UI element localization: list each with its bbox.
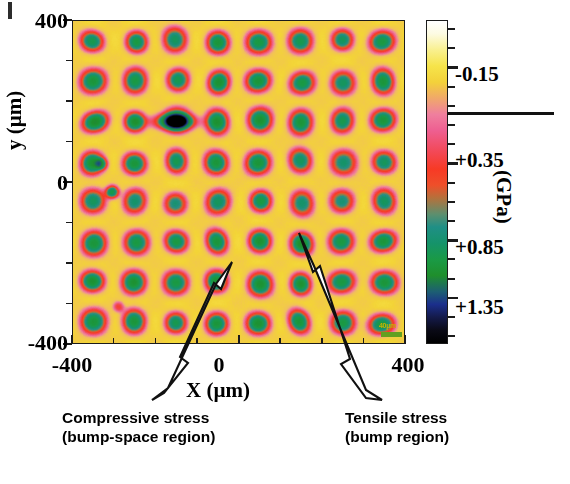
y-axis-ticks <box>72 20 73 344</box>
x-axis-title: X (µm) <box>186 378 250 403</box>
colorbar-tick-6 <box>448 143 455 145</box>
colorbar-tick-8 <box>448 182 455 184</box>
embedded-scalebar-artifact: 40µm <box>379 321 405 339</box>
x-tick--100 <box>196 338 198 344</box>
x-ticklabel-m400: -400 <box>32 352 112 378</box>
stress-heatmap-canvas <box>73 21 404 343</box>
scalebar-bar <box>381 332 402 337</box>
colorbar-tick-13 <box>448 278 455 280</box>
heatmap-plot-area: 40µm <box>72 20 405 344</box>
colorbar-zero-reference-line <box>447 112 554 115</box>
colorbar-tick-10 <box>448 220 455 222</box>
y-ticklabel-0: 0 <box>0 170 68 196</box>
colorbar-tick-1 <box>448 47 455 49</box>
compressive-caption-line2: (bump-space region) <box>62 427 215 446</box>
colorbar-tick-9 <box>448 201 455 203</box>
x-tick--300 <box>113 338 115 344</box>
compressive-stress-caption: Compressive stress (bump-space region) <box>62 408 215 446</box>
colorbar-ticklabel-3: +0.85 <box>455 235 504 260</box>
colorbar-tick-3 <box>448 86 455 88</box>
colorbar-tick-12 <box>448 258 455 260</box>
x-tick-300 <box>363 338 365 344</box>
colorbar-wrapper <box>426 20 448 344</box>
x-tick--200 <box>155 338 157 344</box>
x-tick-0 <box>238 335 240 344</box>
colorbar-ticklabel-4: +1.35 <box>455 295 504 320</box>
tensile-caption-line1: Tensile stress <box>345 409 447 426</box>
colorbar-tick-5 <box>448 124 455 126</box>
x-tick-100 <box>279 338 281 344</box>
colorbar-gradient <box>426 20 448 344</box>
y-axis-ticklabels: 400 0 -400 <box>0 0 70 484</box>
x-tick-200 <box>321 338 323 344</box>
colorbar-tick-16 <box>448 335 455 337</box>
x-axis-ticklabels: -400 0 400 <box>0 352 570 382</box>
colorbar-ticks <box>448 20 449 344</box>
colorbar-tick-0 <box>448 28 455 30</box>
y-axis-title: y (µm) <box>2 91 27 150</box>
compressive-caption-line1: Compressive stress <box>62 409 209 426</box>
tensile-stress-caption: Tensile stress (bump region) <box>345 408 449 446</box>
x-axis-ticks <box>72 344 405 345</box>
x-ticklabel-0: 0 <box>199 352 239 378</box>
y-ticklabel-400: 400 <box>0 8 68 34</box>
tensile-caption-line2: (bump region) <box>345 427 449 446</box>
colorbar-unit-label: (GPa) <box>491 170 516 224</box>
x-ticklabel-400: 400 <box>368 352 448 378</box>
scalebar-label: 40µm <box>379 321 405 330</box>
x-tick-400 <box>404 335 406 344</box>
colorbar-ticklabel-1: -0.15 <box>455 62 499 87</box>
colorbar-tick-4 <box>448 105 455 107</box>
colorbar-tick-15 <box>448 316 455 318</box>
